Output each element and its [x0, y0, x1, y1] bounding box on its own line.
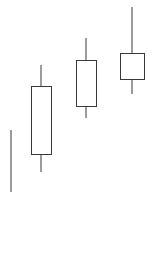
- candlestick-chart: [0, 0, 165, 257]
- candle-body: [120, 53, 145, 80]
- candle-body: [76, 60, 97, 107]
- candle-body: [31, 86, 52, 155]
- chart-plot-area: [0, 0, 165, 257]
- candle-wick: [11, 130, 12, 192]
- candle-wick: [132, 7, 133, 94]
